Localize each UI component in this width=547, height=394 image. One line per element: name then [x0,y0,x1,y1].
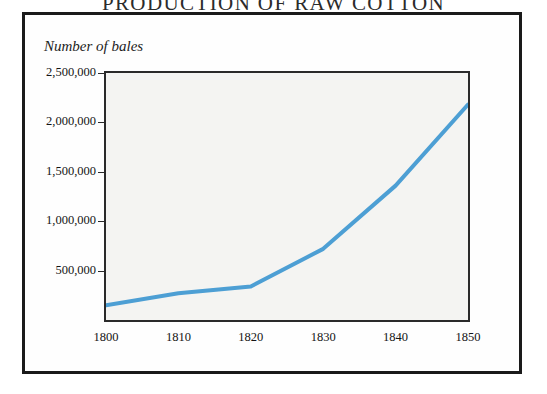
x-tick-label: 1820 [223,330,279,345]
y-tick-label: 1,000,000 [46,213,96,228]
y-tick-mark [98,73,104,74]
x-tick-label: 1800 [78,330,134,345]
y-tick-mark [98,271,104,272]
x-tick-label: 1830 [295,330,351,345]
data-series-line [106,105,468,306]
y-tick-label: 2,000,000 [46,114,96,129]
y-tick-mark [98,172,104,173]
x-tick-label: 1850 [440,330,496,345]
y-tick-label: 500,000 [55,263,96,278]
y-tick-mark [98,122,104,123]
x-tick-label: 1810 [150,330,206,345]
line-chart-svg [106,73,468,320]
plot-area [104,71,470,322]
y-tick-mark [98,221,104,222]
y-tick-label: 2,500,000 [46,65,96,80]
x-tick-label: 1840 [368,330,424,345]
x-axis-tick-labels: 180018101820183018401850 [0,330,547,350]
y-tick-label: 1,500,000 [46,164,96,179]
